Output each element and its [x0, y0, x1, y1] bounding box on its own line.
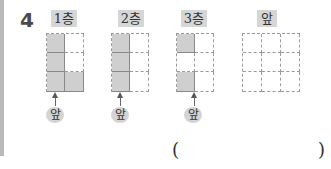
floor-3-grid — [176, 33, 214, 92]
arrow-shaft — [55, 97, 56, 106]
empty-cell[interactable] — [262, 72, 281, 92]
empty-cell[interactable] — [243, 53, 262, 72]
empty-cell — [130, 72, 149, 92]
front-marker-1: 앞 — [46, 107, 64, 123]
empty-cell[interactable] — [262, 53, 281, 72]
filled-cell — [112, 53, 130, 72]
arrow-shaft — [120, 97, 121, 106]
floor-2-grid — [111, 33, 149, 92]
floor-3-label: 3층 — [181, 10, 207, 27]
filled-cell — [177, 72, 195, 92]
empty-cell — [130, 53, 149, 72]
arrow-shaft — [194, 97, 195, 106]
answer-close-paren: ) — [318, 139, 325, 160]
empty-cell[interactable] — [243, 34, 262, 53]
answer-field[interactable] — [225, 139, 315, 159]
empty-cell — [195, 53, 214, 72]
empty-cell — [65, 53, 84, 72]
empty-cell[interactable] — [262, 34, 281, 53]
empty-cell — [130, 34, 149, 53]
front-view-grid[interactable] — [242, 33, 300, 92]
empty-cell[interactable] — [281, 53, 300, 72]
empty-cell — [195, 72, 214, 92]
empty-cell — [195, 34, 214, 53]
filled-cell — [47, 72, 65, 92]
empty-cell — [177, 53, 195, 72]
question-number: 4 — [20, 9, 34, 31]
filled-cell — [112, 72, 130, 92]
front-marker-2: 앞 — [111, 107, 129, 123]
filled-cell — [65, 72, 84, 92]
floor-1-label: 1층 — [51, 10, 77, 27]
front-view-label: 앞 — [257, 10, 277, 27]
floor-1-grid — [46, 33, 84, 92]
empty-cell[interactable] — [281, 34, 300, 53]
empty-cell — [65, 34, 84, 53]
filled-cell — [47, 34, 65, 53]
front-marker-3: 앞 — [184, 107, 202, 123]
answer-open-paren: ( — [172, 139, 179, 160]
side-bar — [0, 0, 4, 156]
floor-2-label: 2층 — [118, 10, 144, 27]
filled-cell — [47, 53, 65, 72]
empty-cell[interactable] — [281, 72, 300, 92]
filled-cell — [112, 34, 130, 53]
filled-cell — [177, 34, 195, 53]
empty-cell[interactable] — [243, 72, 262, 92]
